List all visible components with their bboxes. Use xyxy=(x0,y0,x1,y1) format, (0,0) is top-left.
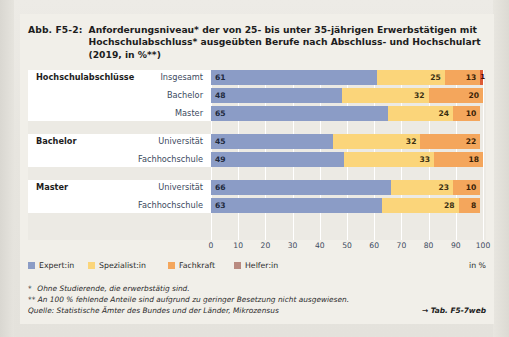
footnote-1: * Ohne Studierende, die erwerbstätig sin… xyxy=(28,283,486,294)
x-axis-tick-30: 30 xyxy=(288,241,298,250)
scan-edge-right xyxy=(493,0,509,337)
bar-segment-fachkraft[interactable]: 8 xyxy=(459,198,481,213)
figure-title-text: Anforderungsniveau* der von 25- bis unte… xyxy=(89,24,481,61)
x-axis-tick-0: 0 xyxy=(209,241,214,250)
x-axis-tick-60: 60 xyxy=(369,241,379,250)
figure-number: Abb. F5-2: xyxy=(28,24,89,61)
legend-label-spezialist: Spezialist:in xyxy=(99,261,146,270)
source-text: Quelle: Statistische Ämter des Bundes un… xyxy=(28,305,279,316)
legend-label-helfer: Helfer:in xyxy=(245,261,278,270)
chart-row: MasterUniversität662310 xyxy=(28,180,486,195)
chart-row: Fachhochschule63288 xyxy=(28,198,486,213)
legend-swatch-spezialist xyxy=(88,262,95,269)
bar-segment-expert[interactable]: 45 xyxy=(211,134,333,149)
row-label: Fachhochschule xyxy=(28,152,203,167)
row-label: Insgesamt xyxy=(28,70,203,85)
bar-segment-expert[interactable]: 48 xyxy=(211,88,342,103)
row-label: Universität xyxy=(28,180,203,195)
x-axis-tick-90: 90 xyxy=(451,241,461,250)
figure-notes: * Ohne Studierende, die erwerbstätig sin… xyxy=(28,283,486,316)
legend-item-expert[interactable]: Expert:in xyxy=(28,259,74,272)
title-line-2: Hochschulabschluss* ausgeübten Berufe na… xyxy=(89,36,481,48)
footnote-1-text: Ohne Studierende, die erwerbstätig sind. xyxy=(37,284,189,293)
footnote-2-marker: ** xyxy=(28,294,35,305)
footnote-2: ** An 100 % fehlende Anteile sind aufgru… xyxy=(28,294,486,305)
bar-segment-spezialist[interactable]: 33 xyxy=(344,152,434,167)
legend-item-helfer[interactable]: Helfer:in xyxy=(234,259,278,272)
x-axis-tick-10: 10 xyxy=(233,241,243,250)
bar-segment-spezialist[interactable]: 32 xyxy=(342,88,429,103)
stacked-bar: 662310 xyxy=(211,180,483,195)
chart-row: Master652410 xyxy=(28,106,486,121)
chart-group: MasterUniversität662310Fachhochschule632… xyxy=(28,180,486,213)
stacked-bar: 493318 xyxy=(211,152,483,167)
row-label: Universität xyxy=(28,134,203,149)
bar-segment-fachkraft[interactable]: 10 xyxy=(453,180,480,195)
legend-swatch-fachkraft xyxy=(168,262,175,269)
source-row: Quelle: Statistische Ämter des Bundes un… xyxy=(28,305,486,316)
legend-swatch-helfer xyxy=(234,262,241,269)
chart-group: HochschulabschlüsseInsgesamt6125131Bache… xyxy=(28,70,486,121)
figure-card: Abb. F5-2: Anforderungsniveau* der von 2… xyxy=(20,14,494,324)
chart-groups: HochschulabschlüsseInsgesamt6125131Bache… xyxy=(28,70,486,213)
bar-segment-spezialist[interactable]: 24 xyxy=(388,106,453,121)
chart-row: BachelorUniversität453222 xyxy=(28,134,486,149)
bar-segment-expert[interactable]: 63 xyxy=(211,198,382,213)
x-axis-tick-100: 100 xyxy=(476,241,491,250)
bar-segment-spezialist[interactable]: 32 xyxy=(333,134,420,149)
legend-item-fachkraft[interactable]: Fachkraft xyxy=(168,259,215,272)
row-label: Bachelor xyxy=(28,88,203,103)
bar-segment-fachkraft[interactable]: 22 xyxy=(420,134,480,149)
axis-unit-label: in % xyxy=(469,259,486,272)
scan-edge-left xyxy=(0,0,14,337)
x-axis-tick-20: 20 xyxy=(261,241,271,250)
group-rows: HochschulabschlüsseInsgesamt6125131Bache… xyxy=(28,70,486,121)
bar-segment-fachkraft[interactable]: 13 xyxy=(445,70,480,85)
bar-segment-expert[interactable]: 49 xyxy=(211,152,344,167)
stacked-bar: 63288 xyxy=(211,198,483,213)
chart-legend: in % Expert:inSpezialist:inFachkraftHelf… xyxy=(28,259,486,272)
bar-segment-expert[interactable]: 66 xyxy=(211,180,391,195)
x-axis-tick-80: 80 xyxy=(424,241,434,250)
legend-swatch-expert xyxy=(28,262,35,269)
bar-segment-fachkraft[interactable]: 20 xyxy=(429,88,483,103)
row-label: Fachhochschule xyxy=(28,198,203,213)
figure-page: Abb. F5-2: Anforderungsniveau* der von 2… xyxy=(0,0,509,337)
bar-segment-expert[interactable]: 65 xyxy=(211,106,388,121)
stacked-bar: 483220 xyxy=(211,88,483,103)
group-rows: MasterUniversität662310Fachhochschule632… xyxy=(28,180,486,213)
chart-row: HochschulabschlüsseInsgesamt6125131 xyxy=(28,70,486,85)
x-axis-tick-40: 40 xyxy=(315,241,325,250)
table-reference-link[interactable]: → Tab. F5-7web xyxy=(422,305,486,316)
chart-row: Bachelor483220 xyxy=(28,88,486,103)
bar-segment-spezialist[interactable]: 28 xyxy=(382,198,458,213)
row-label: Master xyxy=(28,106,203,121)
bar-segment-spezialist[interactable]: 25 xyxy=(377,70,445,85)
footnote-1-marker: * xyxy=(28,283,35,294)
title-line-1: Anforderungsniveau* der von 25- bis unte… xyxy=(89,24,481,36)
x-axis: 0102030405060708090100 xyxy=(28,240,486,254)
figure-title: Abb. F5-2: Anforderungsniveau* der von 2… xyxy=(20,14,494,61)
bar-segment-spezialist[interactable]: 23 xyxy=(391,180,454,195)
stacked-bar: 652410 xyxy=(211,106,483,121)
x-axis-tick-50: 50 xyxy=(342,241,352,250)
group-rows: BachelorUniversität453222Fachhochschule4… xyxy=(28,134,486,167)
bar-segment-fachkraft[interactable]: 18 xyxy=(434,152,483,167)
chart-row: Fachhochschule493318 xyxy=(28,152,486,167)
footnote-2-text: An 100 % fehlende Anteile sind aufgrund … xyxy=(38,295,349,304)
stacked-bar: 453222 xyxy=(211,134,483,149)
legend-item-spezialist[interactable]: Spezialist:in xyxy=(88,259,146,272)
title-line-3: (2019, in %**) xyxy=(89,49,481,61)
bar-segment-helfer[interactable]: 1 xyxy=(480,70,483,85)
x-axis-tick-70: 70 xyxy=(397,241,407,250)
chart-plot-area: HochschulabschlüsseInsgesamt6125131Bache… xyxy=(28,70,486,240)
stacked-bar: 6125131 xyxy=(211,70,483,85)
bar-segment-expert[interactable]: 61 xyxy=(211,70,377,85)
bar-segment-fachkraft[interactable]: 10 xyxy=(453,106,480,121)
chart-group: BachelorUniversität453222Fachhochschule4… xyxy=(28,134,486,167)
legend-label-expert: Expert:in xyxy=(39,261,74,270)
legend-label-fachkraft: Fachkraft xyxy=(179,261,215,270)
